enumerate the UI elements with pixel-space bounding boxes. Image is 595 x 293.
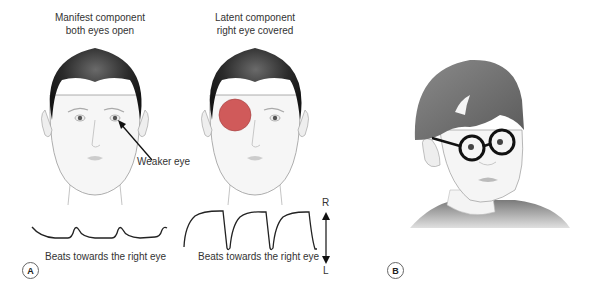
- direction-axis: [322, 212, 330, 264]
- manifest-caption: Manifest component both eyes open: [40, 11, 160, 37]
- eye-icon: [497, 139, 503, 145]
- caption-line: right eye covered: [195, 24, 315, 37]
- boy-with-glasses: [410, 60, 570, 228]
- axis-label-left: L: [323, 265, 329, 276]
- arrow-up-icon: [322, 212, 330, 220]
- face-latent: [202, 48, 309, 205]
- caption-line: both eyes open: [40, 24, 160, 37]
- occluder-icon: [219, 99, 251, 131]
- diagram-canvas: [0, 0, 595, 293]
- arrow-down-icon: [322, 256, 330, 264]
- eye-icon: [468, 144, 474, 150]
- eye-icon: [273, 116, 277, 120]
- caption-line: Manifest component: [40, 11, 160, 24]
- latent-nystagmus-trace: [184, 211, 317, 250]
- boy-hair: [415, 60, 524, 140]
- panel-label-a: A: [22, 262, 39, 279]
- latent-trace-caption: Beats towards the right eye: [198, 251, 319, 262]
- eye-icon: [78, 116, 82, 120]
- manifest-trace-caption: Beats towards the right eye: [45, 251, 166, 262]
- weaker-eye-label: Weaker eye: [137, 156, 190, 167]
- weaker-eye-icon: [113, 116, 117, 120]
- latent-caption: Latent component right eye covered: [195, 11, 315, 37]
- face-manifest: [42, 48, 153, 205]
- manifest-nystagmus-trace: [32, 227, 167, 238]
- axis-label-right: R: [322, 197, 329, 208]
- caption-line: Latent component: [195, 11, 315, 24]
- panel-label-b: B: [387, 262, 404, 279]
- ear: [422, 139, 440, 167]
